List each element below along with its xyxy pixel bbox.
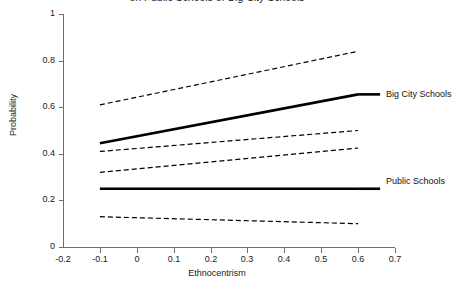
chart-title-line2: on Public Schools or Big City Schools [0, 0, 434, 4]
chart-title: on Public Schools or Big City Schools [0, 0, 434, 4]
x-tick-label: 0.6 [341, 254, 375, 264]
series-label-public-schools: Public Schools [386, 176, 445, 186]
series-line-big-city-schools-lower-ci [100, 131, 358, 152]
x-tick-label: 0.4 [267, 254, 301, 264]
x-tick-label: 0.7 [378, 254, 412, 264]
x-tick-label: -0.1 [83, 254, 117, 264]
x-tick [247, 248, 248, 253]
x-tick [211, 248, 212, 253]
y-tick-label: 1 [29, 8, 55, 18]
y-tick-label: 0.2 [29, 194, 55, 204]
x-tick-label: 0.2 [194, 254, 228, 264]
x-axis-line [63, 247, 395, 248]
x-tick-label: 0.3 [230, 254, 264, 264]
y-axis-title: Probability [8, 80, 18, 150]
x-tick [100, 248, 101, 253]
x-tick-label: -0.2 [46, 254, 80, 264]
x-tick [321, 248, 322, 253]
y-tick [59, 247, 64, 248]
x-tick [284, 248, 285, 253]
y-tick-label: 0.6 [29, 101, 55, 111]
y-axis-line [63, 14, 64, 247]
y-tick [59, 107, 64, 108]
x-axis-title: Ethnocentrism [0, 268, 434, 278]
x-tick [395, 248, 396, 253]
x-tick-label: 0 [120, 254, 154, 264]
y-tick [59, 154, 64, 155]
series-line-big-city-schools-upper-ci [100, 51, 358, 105]
y-tick [59, 61, 64, 62]
series-line-big-city-schools [100, 94, 358, 143]
y-tick-label: 0.4 [29, 148, 55, 158]
x-tick-label: 0.1 [157, 254, 191, 264]
x-tick [137, 248, 138, 253]
y-tick [59, 200, 64, 201]
x-tick [174, 248, 175, 253]
y-tick-label: 0.8 [29, 55, 55, 65]
series-line-public-schools-upper-ci [100, 148, 358, 172]
x-tick [358, 248, 359, 253]
series-line-public-schools-lower-ci [100, 217, 358, 224]
x-tick-label: 0.5 [304, 254, 338, 264]
y-tick [59, 14, 64, 15]
y-tick-label: 0 [29, 241, 55, 251]
series-label-big-city-schools: Big City Schools [386, 89, 452, 99]
